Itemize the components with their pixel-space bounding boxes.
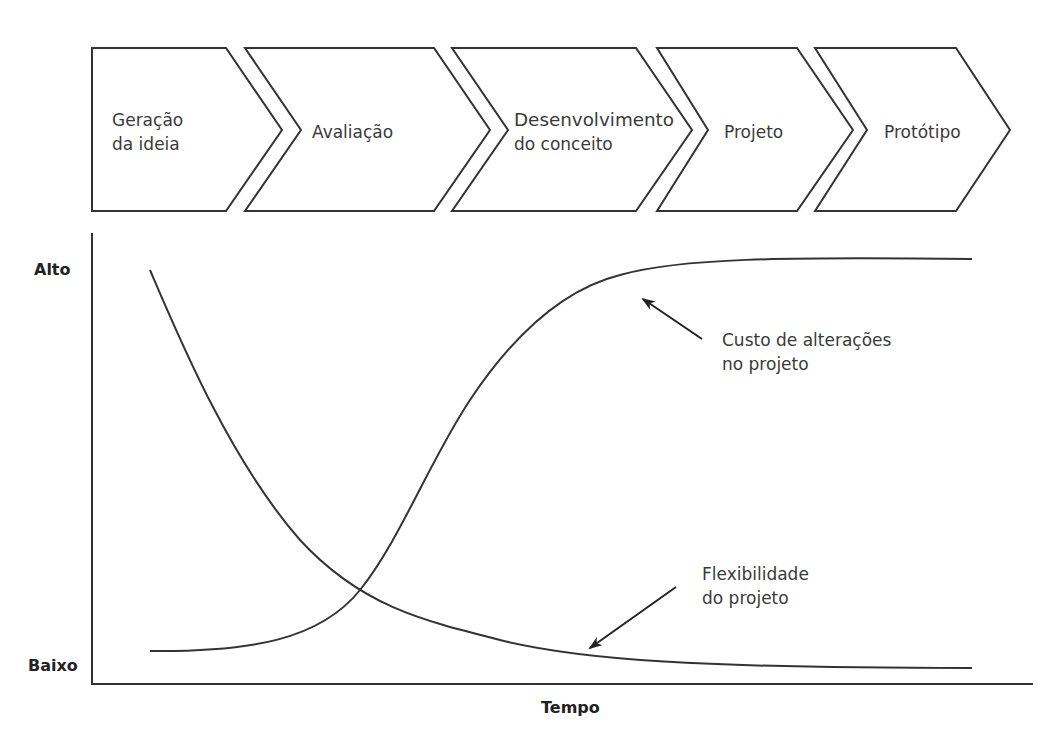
stage-4-label: Projeto bbox=[724, 122, 783, 142]
flexibility-annotation: Flexibilidade do projeto bbox=[702, 564, 814, 608]
y-axis-high-label: Alto bbox=[34, 260, 71, 279]
curves bbox=[150, 258, 972, 668]
annotation-arrows bbox=[590, 299, 702, 648]
cost-arrow-icon bbox=[643, 299, 702, 339]
cost-of-changes-curve bbox=[150, 258, 972, 651]
cost-annotation: Custo de alterações no projeto bbox=[722, 330, 897, 374]
stage-2-label: Avaliação bbox=[312, 122, 393, 142]
y-axis-low-label: Baixo bbox=[28, 656, 78, 675]
flex-arrow-icon bbox=[590, 587, 676, 648]
design-process-diagram: Geração da ideia Avaliação Desenvolvimen… bbox=[0, 0, 1064, 738]
x-axis-label: Tempo bbox=[541, 698, 600, 717]
stage-5-label: Protótipo bbox=[884, 122, 961, 142]
